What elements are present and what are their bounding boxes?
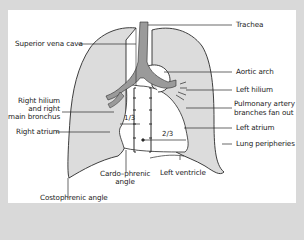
fraction-one-third: 1/3	[124, 114, 135, 122]
label-right-atrium: Right atrium	[16, 128, 60, 136]
label-trachea: Trachea	[236, 21, 263, 29]
label-superior-vena-cava: Superior vena cava	[15, 40, 83, 48]
label-right-hilium-3: main bronchus	[8, 113, 60, 121]
label-left-atrium: Left atrium	[236, 124, 274, 132]
label-lung-peripheries: Lung peripheries	[236, 140, 295, 148]
label-left-hilium: Left hilium	[236, 86, 273, 94]
label-costophrenic-angle: Costophrenic angle	[40, 194, 108, 202]
fraction-two-thirds: 2/3	[162, 130, 173, 138]
label-left-ventricle: Left ventricle	[160, 169, 206, 177]
label-cardio-phrenic-2: angle	[100, 178, 150, 186]
label-pulmonary-artery-2: branches fan out	[234, 109, 293, 117]
label-aortic-arch: Aortic arch	[236, 68, 274, 76]
label-pulmonary-artery-1: Pulmonary artery	[234, 100, 295, 108]
